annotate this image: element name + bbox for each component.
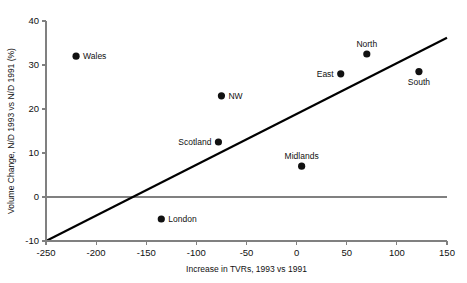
x-tick-label: -150 [137,247,156,258]
data-point [337,70,344,77]
x-tick-label: 50 [341,247,352,258]
data-point-label: London [168,214,197,224]
x-tick-label: 150 [439,247,455,258]
x-axis-ticks: -250-200-150-100-50050100150 [36,241,454,258]
x-axis-title: Increase in TVRs, 1993 vs 1991 [186,264,307,274]
y-tick-label: 30 [28,59,39,70]
regression-fit-line [46,38,447,241]
y-tick-label: 20 [28,103,39,114]
y-tick-label: 40 [28,15,39,26]
data-point [298,163,305,170]
x-tick-label: 0 [294,247,299,258]
data-point [218,92,225,99]
data-point [415,68,422,75]
data-point [363,50,370,57]
data-point-label: Midlands [285,151,319,161]
y-tick-label: 10 [28,147,39,158]
x-tick-label: -100 [187,247,206,258]
data-point-label: South [408,77,430,87]
data-point-label: North [356,39,377,49]
plot-area: -250-200-150-100-50050100150 -1001020304… [0,0,467,283]
y-axis-title: Volume Change, N/D 1993 vs N/D 1991 (%) [6,48,16,214]
data-point-label: East [317,69,335,79]
y-axis-ticks: -10010203040 [25,15,46,246]
data-point [215,138,222,145]
x-tick-label: -200 [87,247,106,258]
y-tick-label: -10 [25,235,39,246]
data-point [158,215,165,222]
x-tick-label: -50 [240,247,254,258]
x-tick-label: -250 [36,247,55,258]
scatter-chart: -250-200-150-100-50050100150 -1001020304… [0,0,467,283]
data-point-label: Wales [83,51,106,61]
data-point [72,53,79,60]
fit-line-path [46,38,447,241]
data-point-label: NW [228,91,242,101]
data-point-label: Scotland [178,137,211,147]
x-tick-label: 100 [389,247,405,258]
y-tick-label: 0 [34,191,39,202]
